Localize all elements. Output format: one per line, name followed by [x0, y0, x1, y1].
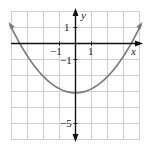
- y-axis-label: y: [80, 9, 86, 21]
- y-tick-label-neg1: −1: [60, 54, 72, 66]
- y-axis-arrow-down-icon: [73, 134, 79, 142]
- y-tick-label-neg5: −5: [60, 117, 72, 129]
- y-tick-label-1: 1: [64, 21, 70, 33]
- x-tick-label-1: 1: [88, 45, 94, 57]
- x-axis-label: x: [130, 45, 136, 57]
- graph-canvas: y x 1 −1 1 −1 −5: [0, 0, 148, 148]
